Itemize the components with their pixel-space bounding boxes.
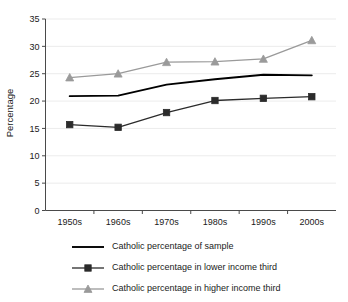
legend-item: Catholic percentage in lower income thir… — [72, 262, 277, 272]
data-point-marker — [67, 121, 73, 127]
y-tick-label: 35 — [29, 14, 39, 24]
data-point-marker — [308, 36, 316, 43]
y-axis-title: Percentage — [4, 89, 15, 138]
y-axis-ticks: 35302520151050 — [29, 14, 45, 216]
y-tick-label: 30 — [29, 42, 39, 52]
legend-label: Catholic percentage of sample — [112, 241, 234, 251]
y-tick-label: 25 — [29, 69, 39, 79]
gridlines — [46, 19, 337, 183]
series-1 — [70, 75, 312, 96]
legend-label: Catholic percentage in lower income thir… — [112, 262, 277, 272]
y-tick-label: 0 — [34, 206, 39, 216]
legend-item: Catholic percentage of sample — [72, 241, 234, 251]
series-2 — [67, 93, 315, 130]
x-tick-label: 1990s — [251, 217, 276, 227]
data-point-marker — [85, 265, 91, 271]
legend-item: Catholic percentage in higher income thi… — [72, 283, 281, 293]
data-point-marker — [163, 109, 169, 115]
x-tick-label: 1950s — [57, 217, 82, 227]
data-point-marker — [212, 97, 218, 103]
legend-label: Catholic percentage in higher income thi… — [112, 283, 281, 293]
series-line — [70, 40, 312, 77]
data-point-marker — [260, 95, 266, 101]
data-point-marker — [309, 93, 315, 99]
x-axis-ticks: 1950s1960s1970s1980s1990s2000s — [57, 211, 324, 227]
y-tick-label: 20 — [29, 96, 39, 106]
y-tick-label: 15 — [29, 124, 39, 134]
line-chart: 35302520151050 1950s1960s1970s1980s1990s… — [0, 0, 348, 302]
y-tick-label: 10 — [29, 151, 39, 161]
y-tick-label: 5 — [34, 178, 39, 188]
x-tick-label: 1980s — [203, 217, 228, 227]
x-tick-label: 1970s — [154, 217, 179, 227]
x-tick-label: 1960s — [106, 217, 131, 227]
chart-legend: Catholic percentage of sampleCatholic pe… — [72, 241, 281, 293]
data-point-marker — [115, 124, 121, 130]
series-group — [66, 36, 316, 130]
series-line — [70, 75, 312, 96]
x-tick-label: 2000s — [300, 217, 325, 227]
chart-canvas: 35302520151050 1950s1960s1970s1980s1990s… — [0, 0, 348, 302]
